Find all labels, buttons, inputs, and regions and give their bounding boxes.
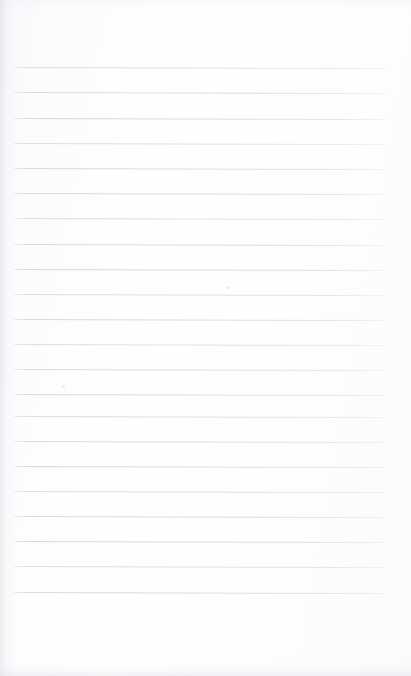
- ruled-line: [14, 92, 385, 94]
- ruled-line: [14, 218, 385, 220]
- ruled-line: [14, 319, 385, 321]
- ruled-line: [14, 244, 385, 246]
- ruled-line: [14, 193, 385, 195]
- ruled-line: [14, 269, 385, 271]
- scanned-notebook-page: [0, 0, 411, 676]
- ruled-line: [14, 394, 385, 396]
- ruled-line: [14, 118, 385, 120]
- ruled-line: [14, 541, 385, 543]
- ruled-line: [14, 491, 385, 493]
- ruled-line: [14, 566, 385, 568]
- ruled-line: [14, 294, 385, 296]
- ruled-line: [14, 369, 385, 371]
- ruled-line: [14, 592, 385, 594]
- ruled-line: [14, 344, 385, 346]
- ruled-line: [14, 441, 385, 443]
- ruled-line: [14, 416, 385, 418]
- ruled-line: [14, 67, 385, 69]
- ruled-line: [14, 466, 385, 468]
- ruled-line: [14, 516, 385, 518]
- ruled-line: [14, 143, 385, 145]
- ruled-lines-layer: [0, 0, 411, 676]
- ruled-line: [14, 168, 385, 170]
